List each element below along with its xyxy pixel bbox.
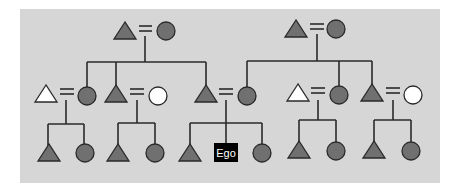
ego-label: Ego <box>216 147 236 159</box>
female-circle-icon <box>238 87 256 105</box>
female-circle-icon <box>402 142 420 160</box>
female-circle-icon <box>78 87 96 105</box>
female-circle-icon <box>327 142 345 160</box>
female-circle-icon <box>253 144 271 162</box>
kinship-diagram: Ego <box>0 0 457 193</box>
female-circle-icon <box>327 20 345 38</box>
female-circle-icon <box>149 87 167 105</box>
female-circle-icon <box>146 144 164 162</box>
ego-node: Ego <box>214 143 238 162</box>
female-circle-icon <box>157 22 175 40</box>
female-circle-icon <box>404 86 422 104</box>
female-circle-icon <box>76 144 94 162</box>
female-circle-icon <box>330 86 348 104</box>
